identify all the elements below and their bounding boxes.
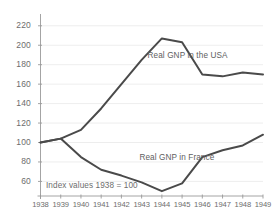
x-tick-label: 1944: [151, 200, 173, 209]
x-tick-label: 1949: [252, 200, 274, 209]
x-tick-label: 1941: [90, 200, 112, 209]
chart-container: 6080100120140160180200220193819391940194…: [0, 0, 280, 222]
series-label-france: Real GNP in France: [139, 153, 214, 162]
y-tick-label: 120: [5, 118, 31, 128]
line-chart-plot: [0, 0, 280, 222]
x-tick-label: 1946: [191, 200, 213, 209]
y-axis-ticks: [38, 26, 42, 182]
x-axis-ticks: [41, 195, 264, 199]
x-tick-label: 1942: [110, 200, 132, 209]
x-tick-label: 1939: [50, 200, 72, 209]
y-tick-label: 220: [5, 20, 31, 30]
y-tick-label: 200: [5, 40, 31, 50]
y-tick-label: 160: [5, 79, 31, 89]
x-tick-label: 1948: [232, 200, 254, 209]
series-label-usa: Real GNP in the USA: [148, 51, 228, 60]
x-tick-label: 1943: [131, 200, 153, 209]
y-tick-label: 140: [5, 98, 31, 108]
y-tick-label: 80: [5, 156, 31, 166]
x-tick-label: 1940: [70, 200, 92, 209]
index-annotation: Index values 1938 = 100: [46, 181, 138, 190]
y-tick-label: 180: [5, 59, 31, 69]
y-tick-label: 60: [5, 176, 31, 186]
axis-lines: [38, 14, 264, 199]
x-tick-label: 1947: [212, 200, 234, 209]
x-tick-label: 1938: [30, 200, 52, 209]
x-tick-label: 1945: [171, 200, 193, 209]
y-tick-label: 100: [5, 137, 31, 147]
